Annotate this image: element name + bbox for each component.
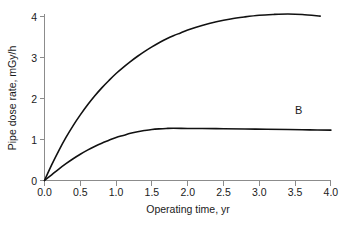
axes-group xyxy=(45,14,332,181)
x-tick-label-7: 3.5 xyxy=(288,186,303,198)
x-tick-label-6: 3.0 xyxy=(252,186,267,198)
x-tick-label-1: 0.5 xyxy=(73,186,88,198)
x-tick-label-3: 1.5 xyxy=(145,186,160,198)
x-tick-label-4: 2.0 xyxy=(180,186,195,198)
y-tick-label-2: 2 xyxy=(31,93,37,105)
series-label-b: B xyxy=(295,104,302,116)
x-axis-tick-labels: 0.0 0.5 1.0 1.5 2.0 2.5 3.0 3.5 4.0 xyxy=(37,186,338,198)
line-chart: 4 3 2 1 0 0.0 0.5 1.0 1.5 2.0 2.5 3.0 xyxy=(0,0,342,225)
y-tick-label-3: 3 xyxy=(31,52,37,64)
x-tick-label-8: 4.0 xyxy=(324,186,339,198)
series-label-a: A xyxy=(295,0,303,1)
x-axis-title: Operating time, yr xyxy=(146,203,230,215)
y-tick-label-0: 0 xyxy=(31,175,37,187)
chart-figure: 4 3 2 1 0 0.0 0.5 1.0 1.5 2.0 2.5 3.0 xyxy=(0,0,342,225)
x-tick-label-0: 0.0 xyxy=(37,186,52,198)
y-axis-ticks xyxy=(40,17,45,181)
y-axis-title: Pipe dose rate, mGy/h xyxy=(6,46,18,151)
x-tick-label-5: 2.5 xyxy=(216,186,231,198)
y-axis-tick-labels: 4 3 2 1 0 xyxy=(31,11,37,187)
y-tick-label-1: 1 xyxy=(31,134,37,146)
x-tick-label-2: 1.0 xyxy=(109,186,124,198)
data-curve-a xyxy=(45,14,321,180)
data-curve-b xyxy=(45,128,331,180)
y-tick-label-4: 4 xyxy=(31,11,37,23)
clipped-caption-strip xyxy=(0,216,342,225)
